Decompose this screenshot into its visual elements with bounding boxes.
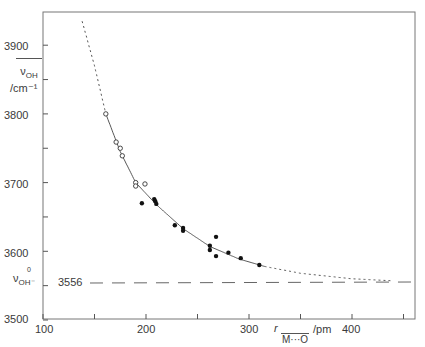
- y-axis-title: νOH: [16, 58, 42, 79]
- ref-sup: 0: [27, 266, 31, 273]
- filled-data-point: [208, 248, 212, 252]
- filled-data-point: [226, 250, 230, 254]
- open-circle-series: [104, 112, 148, 189]
- open-data-point: [118, 146, 122, 150]
- x-tick-label-100: 100: [35, 323, 53, 335]
- filled-data-point: [257, 263, 261, 267]
- y-axis-unit: /cm⁻¹: [10, 82, 37, 95]
- ref-symbol: ν: [13, 272, 19, 284]
- open-data-point: [104, 112, 108, 116]
- filled-data-point: [214, 235, 218, 239]
- ref-sub: OH⁻: [19, 278, 35, 287]
- filled-data-point: [173, 223, 177, 227]
- reference-value-label: 3556: [58, 276, 82, 288]
- filled-data-point: [214, 254, 218, 258]
- open-data-point: [134, 184, 138, 188]
- y-title-symbol: ν: [20, 65, 26, 77]
- x-title-sub: M···O: [281, 333, 309, 345]
- fit-curve-extrapolation-high: [82, 21, 106, 114]
- reference-line-3556: [90, 282, 415, 283]
- y-tick-label-3900: 3900: [4, 40, 28, 52]
- reference-label: νOH⁻: [13, 272, 35, 284]
- fit-curve-extrapolation-low: [265, 266, 394, 280]
- fit-curve: [106, 114, 265, 267]
- y-tick-label-3800: 3800: [4, 109, 28, 121]
- y-tick-label-3700: 3700: [4, 178, 28, 190]
- filled-data-point: [208, 244, 212, 248]
- plot-frame: [43, 12, 415, 319]
- chart-canvas: [0, 0, 425, 347]
- open-data-point: [114, 140, 118, 144]
- y-tick-label-3600: 3600: [4, 247, 28, 259]
- x-title-unit: /pm: [313, 323, 331, 335]
- x-title-symbol: r: [274, 322, 278, 334]
- x-tick-label-200: 200: [137, 323, 155, 335]
- filled-data-point: [181, 228, 185, 232]
- open-data-point: [143, 182, 147, 186]
- filled-data-point: [140, 201, 144, 205]
- filled-data-point: [239, 256, 243, 260]
- filled-circle-series: [140, 197, 262, 267]
- y-tick-label-3500: 3500: [4, 313, 28, 325]
- y-title-sub: OH: [26, 71, 38, 80]
- open-data-point: [120, 154, 124, 158]
- x-tick-label-300: 300: [240, 323, 258, 335]
- filled-data-point: [154, 202, 158, 206]
- x-tick-label-400: 400: [342, 323, 360, 335]
